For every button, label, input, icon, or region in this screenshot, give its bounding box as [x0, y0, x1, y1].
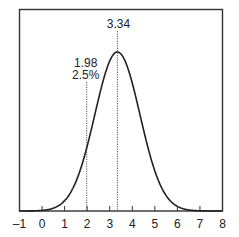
- x-tick-label: 6: [174, 217, 181, 231]
- plot-frame: [20, 10, 223, 212]
- annotation-sublabel: 2.5%: [72, 68, 100, 82]
- x-tick-label: 3: [106, 217, 113, 231]
- x-axis-ticks: [42, 206, 200, 211]
- x-tick-label: 8: [219, 217, 226, 231]
- x-tick-label: 7: [197, 217, 204, 231]
- normal-curve-chart: –1012345678 3.341.982.5%: [0, 0, 239, 237]
- annotation-label: 3.34: [107, 17, 131, 31]
- x-tick-label: 1: [61, 217, 68, 231]
- annotations: 3.341.982.5%: [72, 17, 130, 211]
- x-tick-label: 2: [84, 217, 91, 231]
- x-tick-label: 0: [39, 217, 46, 231]
- x-tick-label: 5: [151, 217, 158, 231]
- x-axis-tick-labels: –1012345678: [13, 217, 226, 231]
- x-tick-label: –1: [13, 217, 27, 231]
- density-curve: [20, 52, 223, 211]
- x-tick-label: 4: [129, 217, 136, 231]
